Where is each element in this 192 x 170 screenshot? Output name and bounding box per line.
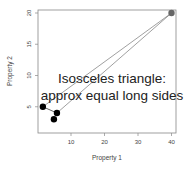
y-tick-label: 20 bbox=[26, 9, 32, 16]
annotation-line-1: Isosceles triangle: bbox=[58, 71, 166, 86]
data-point bbox=[168, 10, 174, 16]
data-point bbox=[51, 116, 57, 122]
x-tick-label: 30 bbox=[135, 139, 142, 145]
y-axis: 5101520 bbox=[26, 9, 38, 108]
y-tick-label: 15 bbox=[26, 40, 32, 47]
annotation-line-2: approx equal long sides bbox=[41, 88, 184, 103]
x-axis: 10203040 bbox=[68, 133, 176, 145]
x-axis-label: Property 1 bbox=[92, 154, 122, 162]
y-axis-label: Property 2 bbox=[6, 56, 14, 86]
x-tick-label: 10 bbox=[68, 139, 75, 145]
y-tick-label: 5 bbox=[26, 104, 32, 108]
y-tick-label: 10 bbox=[26, 72, 32, 79]
x-tick-label: 20 bbox=[101, 139, 108, 145]
data-points bbox=[40, 10, 175, 123]
data-point bbox=[54, 110, 60, 116]
data-point bbox=[40, 104, 46, 110]
scatter-chart: 10203040 5101520 Property 1 Property 2 I… bbox=[0, 0, 192, 170]
x-tick-label: 40 bbox=[168, 139, 175, 145]
